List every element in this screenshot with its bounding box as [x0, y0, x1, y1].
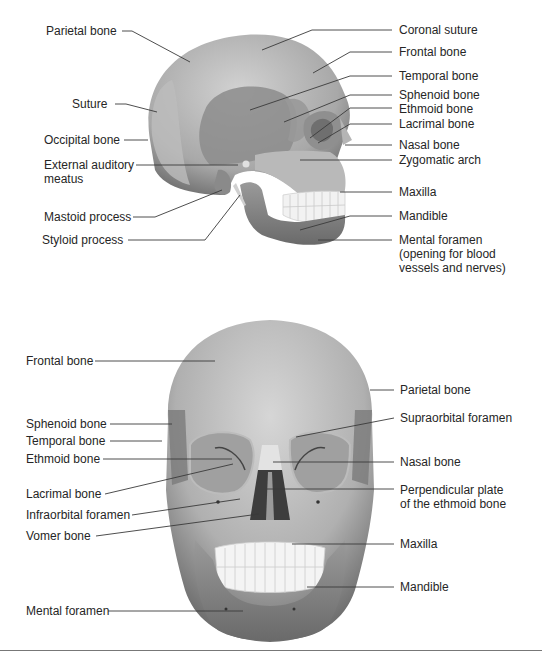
label-line: Mental foramen	[399, 233, 506, 247]
label-occipital-bone-lateral: Occipital bone	[44, 133, 120, 147]
label-supraorbital-foramen-anterior: Supraorbital foramen	[400, 411, 512, 425]
label-line: meatus	[44, 172, 134, 186]
anterior-skull	[166, 320, 374, 642]
label-perpendicular-plate-anterior: Perpendicular plate of the ethmoid bone	[400, 483, 506, 511]
label-frontal-bone-lateral: Frontal bone	[399, 45, 466, 59]
label-ethmoid-bone-anterior: Ethmoid bone	[26, 452, 100, 466]
label-nasal-bone-anterior: Nasal bone	[400, 455, 461, 469]
label-parietal-bone-anterior: Parietal bone	[400, 383, 471, 397]
label-parietal-bone-lateral: Parietal bone	[46, 24, 117, 38]
label-styloid-process-lateral: Styloid process	[42, 233, 123, 247]
label-lacrimal-bone-anterior: Lacrimal bone	[26, 487, 101, 501]
bottom-divider	[0, 650, 542, 651]
label-line: External auditory	[44, 158, 134, 172]
label-line: (opening for blood	[399, 247, 506, 261]
label-zygomatic-arch-lateral: Zygomatic arch	[399, 153, 481, 167]
label-mandible-anterior: Mandible	[400, 580, 449, 594]
label-ethmoid-bone-lateral: Ethmoid bone	[399, 102, 473, 116]
lateral-skull	[148, 35, 352, 245]
label-suture-lateral: Suture	[72, 97, 107, 111]
label-sphenoid-bone-anterior: Sphenoid bone	[26, 417, 107, 431]
label-frontal-bone-anterior: Frontal bone	[26, 354, 93, 368]
skull-anatomy-figure: Parietal bone Suture Occipital bone Exte…	[0, 0, 542, 659]
label-mastoid-process-lateral: Mastoid process	[44, 210, 131, 224]
label-temporal-bone-anterior: Temporal bone	[26, 434, 105, 448]
label-maxilla-anterior: Maxilla	[400, 537, 437, 551]
label-sphenoid-bone-lateral: Sphenoid bone	[399, 88, 480, 102]
label-temporal-bone-lateral: Temporal bone	[399, 69, 478, 83]
label-external-auditory-meatus-lateral: External auditory meatus	[44, 158, 134, 186]
label-mandible-lateral: Mandible	[399, 209, 448, 223]
label-line: of the ethmoid bone	[400, 497, 506, 511]
label-coronal-suture-lateral: Coronal suture	[399, 23, 478, 37]
label-line: vessels and nerves)	[399, 261, 506, 275]
label-maxilla-lateral: Maxilla	[399, 185, 436, 199]
label-mental-foramen-lateral: Mental foramen (opening for blood vessel…	[399, 233, 506, 275]
label-vomer-bone-anterior: Vomer bone	[26, 529, 91, 543]
label-infraorbital-foramen-anterior: Infraorbital foramen	[26, 508, 130, 522]
label-nasal-bone-lateral: Nasal bone	[399, 138, 460, 152]
label-lacrimal-bone-lateral: Lacrimal bone	[399, 117, 474, 131]
label-line: Perpendicular plate	[400, 483, 506, 497]
label-mental-foramen-anterior: Mental foramen	[26, 604, 109, 618]
